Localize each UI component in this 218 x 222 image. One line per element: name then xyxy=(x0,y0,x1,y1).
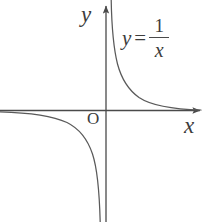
graph-canvas xyxy=(0,0,218,222)
x-axis-label: x xyxy=(184,114,194,137)
equation-fraction: 1 x xyxy=(149,16,169,60)
hyperbola-branch-negative xyxy=(0,112,100,222)
equation-equals-sign: = xyxy=(133,28,149,49)
fraction-bar xyxy=(149,37,169,38)
fraction-numerator: 1 xyxy=(154,16,164,36)
equation-lhs: y xyxy=(122,28,133,49)
equation-annotation: y = 1 x xyxy=(122,16,169,60)
function-graph-figure: y x O y = 1 x xyxy=(0,0,218,222)
y-axis-label: y xyxy=(81,3,91,26)
fraction-denominator: x xyxy=(155,39,164,60)
origin-label: O xyxy=(87,110,99,127)
